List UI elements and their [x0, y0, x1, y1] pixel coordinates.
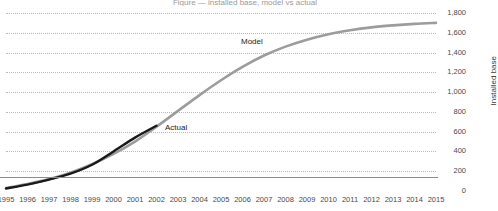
y-tick-label: 400 [440, 147, 466, 155]
y-tick-label: 200 [440, 167, 466, 175]
x-tick-label: 1997 [41, 196, 58, 204]
x-tick-label: 2013 [385, 196, 402, 204]
x-axis-baseline [0, 177, 438, 178]
y-tick-label: 1,200 [440, 68, 466, 76]
x-tick-label: 2003 [170, 196, 187, 204]
x-tick-label: 2002 [148, 196, 165, 204]
y-tick-label: 1,600 [440, 29, 466, 37]
x-tick-label: 1996 [19, 196, 36, 204]
actual-line [6, 126, 157, 189]
x-tick-label: 1998 [62, 196, 79, 204]
y-tick-label: 0 [440, 187, 466, 195]
x-tick-label: 2014 [406, 196, 423, 204]
x-tick-label: 2004 [191, 196, 208, 204]
x-tick-label: 2007 [256, 196, 273, 204]
x-tick-label: 1995 [0, 196, 14, 204]
x-tick-label: 2009 [299, 196, 316, 204]
x-tick-label: 2010 [320, 196, 337, 204]
actual-annotation: Actual [165, 124, 187, 132]
model-annotation: Model [241, 38, 263, 46]
x-tick-label: 2015 [428, 196, 445, 204]
plot-area [6, 13, 436, 191]
x-tick-label: 2011 [342, 196, 358, 204]
x-tick-label: 2005 [213, 196, 230, 204]
chart-title-sliver: Figure — installed base, model vs actual [0, 0, 490, 6]
x-tick-label: 2006 [234, 196, 251, 204]
model-line [6, 23, 436, 188]
y-tick-label: 800 [440, 108, 466, 116]
y-tick-label: 600 [440, 128, 466, 136]
series-lines [6, 13, 436, 191]
y-tick-label: 1,800 [440, 9, 466, 17]
x-tick-label: 2012 [363, 196, 380, 204]
x-tick-label: 1999 [84, 196, 101, 204]
y-tick-label: 1,400 [440, 49, 466, 57]
x-tick-label: 2000 [105, 196, 122, 204]
x-tick-label: 2001 [127, 196, 144, 204]
x-tick-label: 2008 [277, 196, 294, 204]
y-tick-label: 1,000 [440, 88, 466, 96]
y-axis-title: Installed base [489, 56, 498, 105]
